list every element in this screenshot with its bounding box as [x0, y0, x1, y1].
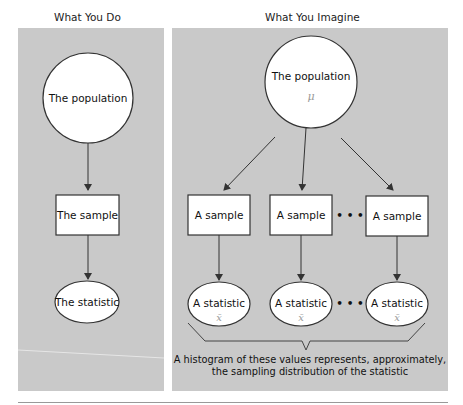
- diagram-canvas: The population The sample The statistic …: [0, 0, 463, 405]
- right-statistic-node-2: A statistic x̄: [270, 282, 332, 326]
- statistic-label-3: A statistic: [371, 297, 423, 309]
- left-sample-label: The sample: [56, 209, 118, 221]
- caption-line-1: A histogram of these values represents, …: [174, 354, 446, 365]
- mu-symbol: μ: [307, 90, 314, 103]
- right-sample-node-2: A sample: [270, 195, 332, 235]
- grouping-brace: [188, 323, 425, 350]
- statistic-label-1: A statistic: [193, 297, 245, 309]
- left-sample-node: The sample: [56, 195, 119, 235]
- statistics-ellipsis: • • •: [336, 297, 363, 309]
- bottom-rule: [18, 402, 448, 403]
- arrow-population-to-sample-2: [302, 128, 306, 190]
- right-population-node: The population μ: [265, 36, 357, 128]
- left-statistic-node: The statistic: [54, 281, 119, 323]
- xbar-symbol-2: x̄: [298, 312, 304, 323]
- right-sample-node-3: A sample: [366, 196, 428, 236]
- xbar-symbol-3: x̄: [394, 312, 400, 323]
- arrow-population-to-sample-1: [224, 137, 275, 190]
- right-statistic-node-3: A statistic x̄: [366, 282, 428, 326]
- samples-ellipsis: • • •: [336, 209, 363, 221]
- statistic-label-2: A statistic: [275, 297, 327, 309]
- left-population-label: The population: [48, 92, 128, 104]
- sample-label-3: A sample: [373, 210, 422, 222]
- xbar-symbol-1: x̄: [216, 312, 222, 323]
- right-statistic-node-1: A statistic x̄: [188, 282, 250, 326]
- sample-label-1: A sample: [195, 209, 244, 221]
- sample-label-2: A sample: [277, 209, 326, 221]
- caption-line-2: the sampling distribution of the statist…: [212, 366, 408, 377]
- left-population-node: The population: [43, 53, 133, 143]
- right-sample-node-1: A sample: [188, 195, 250, 235]
- arrow-population-to-sample-3: [341, 138, 393, 190]
- scan-artifact-line: [18, 350, 164, 358]
- left-statistic-label: The statistic: [54, 296, 119, 308]
- right-population-label: The population: [271, 70, 351, 82]
